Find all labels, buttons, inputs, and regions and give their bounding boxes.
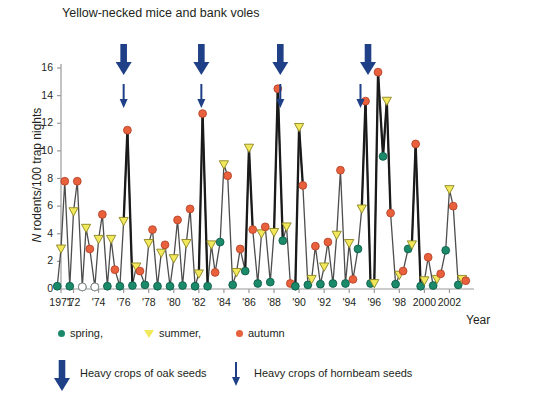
legend-label: autumn xyxy=(248,327,285,339)
data-point-spring xyxy=(166,282,174,290)
data-point-summer xyxy=(81,224,90,232)
oak-crop-arrow-icon xyxy=(272,44,288,75)
data-point-spring xyxy=(129,282,137,290)
data-point-autumn xyxy=(374,68,382,76)
data-point-summer xyxy=(119,217,128,225)
data-point-autumn xyxy=(124,126,132,134)
data-point-autumn xyxy=(311,242,319,250)
oak-crop-arrow-icon xyxy=(193,44,209,75)
data-point-summer xyxy=(182,240,191,248)
annotation-legend-label: Heavy crops of hornbeam seeds xyxy=(254,367,412,379)
data-point-autumn xyxy=(211,269,219,277)
data-point-autumn xyxy=(337,166,345,174)
data-point-summer xyxy=(332,231,341,239)
data-point-autumn xyxy=(261,223,269,231)
y-tick-label: 6 xyxy=(31,199,53,211)
y-tick-label: 0 xyxy=(31,282,53,294)
data-point-autumn xyxy=(449,202,457,210)
data-point-spring xyxy=(229,281,237,289)
data-point-autumn xyxy=(111,266,119,274)
data-point-spring xyxy=(204,282,212,290)
data-point-spring xyxy=(429,282,437,290)
data-point-summer xyxy=(69,208,78,216)
x-tick-label: 2002 xyxy=(432,296,466,308)
data-point-spring xyxy=(241,267,249,275)
data-point-summer xyxy=(345,240,354,248)
data-point-autumn xyxy=(98,211,106,219)
oak-crop-arrow-icon xyxy=(360,44,376,75)
oak-crop-arrow-icon xyxy=(116,44,132,75)
y-tick-label: 14 xyxy=(31,89,53,101)
data-point-spring xyxy=(342,280,350,288)
data-point-spring-open xyxy=(78,283,86,291)
data-point-summer xyxy=(207,241,216,249)
data-point-summer xyxy=(269,228,278,236)
data-point-spring xyxy=(141,281,149,289)
data-point-spring xyxy=(191,282,199,290)
legend-label: spring, xyxy=(70,327,103,339)
data-point-spring xyxy=(216,238,224,246)
y-tick-label: 2 xyxy=(31,254,53,266)
data-point-autumn xyxy=(299,182,307,190)
data-point-summer xyxy=(244,144,253,152)
data-point-spring xyxy=(53,282,61,290)
data-point-spring xyxy=(266,278,274,286)
data-point-spring xyxy=(103,282,111,290)
data-point-autumn xyxy=(86,245,94,253)
circle-marker-icon xyxy=(58,330,65,337)
hornbeam-crop-arrow-icon xyxy=(232,362,240,386)
data-point-autumn xyxy=(224,172,232,180)
data-point-spring xyxy=(291,282,299,290)
data-point-autumn xyxy=(387,209,395,217)
data-point-summer xyxy=(94,235,103,243)
y-tick-label: 4 xyxy=(31,227,53,239)
hornbeam-crop-arrow-icon xyxy=(120,84,128,108)
data-point-autumn xyxy=(399,267,407,275)
data-point-spring xyxy=(154,282,162,290)
data-point-summer xyxy=(157,249,166,257)
legend-item-autumn: autumn xyxy=(236,327,285,339)
legend-item-spring: spring, xyxy=(58,327,103,339)
y-tick-label: 10 xyxy=(31,144,53,156)
data-point-autumn xyxy=(437,270,445,278)
data-point-spring-open xyxy=(91,283,99,291)
data-point-spring xyxy=(66,282,74,290)
data-point-autumn xyxy=(249,226,257,234)
data-point-summer xyxy=(320,263,329,271)
oak-crop-arrow-icon xyxy=(54,360,70,391)
data-point-autumn xyxy=(324,238,332,246)
y-tick-label: 16 xyxy=(31,61,53,73)
data-point-autumn xyxy=(149,226,157,234)
data-point-summer xyxy=(382,97,391,105)
data-point-summer xyxy=(294,123,303,131)
data-point-autumn xyxy=(136,267,144,275)
data-point-spring xyxy=(316,280,324,288)
data-point-autumn xyxy=(462,277,470,285)
annotation-legend-label: Heavy crops of oak seeds xyxy=(80,367,207,379)
hornbeam-crop-arrow-icon xyxy=(197,84,205,108)
y-tick-label: 8 xyxy=(31,172,53,184)
data-point-summer xyxy=(56,245,65,253)
data-point-summer xyxy=(194,270,203,278)
data-point-summer xyxy=(445,186,454,194)
data-point-spring xyxy=(279,237,287,245)
data-point-autumn xyxy=(199,110,207,118)
data-point-spring xyxy=(179,282,187,290)
data-point-autumn xyxy=(186,205,194,213)
circle-marker-icon xyxy=(236,330,243,337)
data-point-autumn xyxy=(412,140,420,148)
data-point-spring xyxy=(379,153,387,161)
data-point-spring xyxy=(254,280,262,288)
data-point-autumn xyxy=(424,253,432,261)
data-point-spring xyxy=(392,280,400,288)
triangle-marker-icon xyxy=(144,330,154,338)
data-point-autumn xyxy=(349,275,357,283)
data-point-autumn xyxy=(161,241,169,249)
data-point-summer xyxy=(144,240,153,248)
data-point-summer xyxy=(357,205,366,213)
legend-label: summer, xyxy=(159,327,201,339)
data-point-autumn xyxy=(73,177,81,185)
legend-item-summer: summer, xyxy=(144,327,201,339)
data-point-autumn xyxy=(61,177,69,185)
data-point-autumn xyxy=(174,216,182,224)
